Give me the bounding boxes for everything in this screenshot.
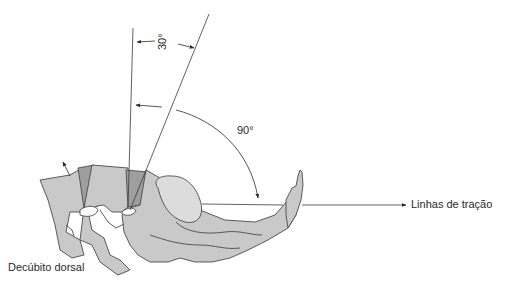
spine-traction-diagram: 30° 90° — [0, 0, 509, 285]
arrow-30-left — [137, 41, 155, 42]
lumbar-sacral-spine-illustration — [40, 165, 303, 275]
angle-30-label: 30° — [156, 33, 168, 50]
coccyx — [286, 170, 303, 228]
sacrum — [122, 170, 296, 262]
traction-lines-label: Linhas de tração — [411, 198, 492, 210]
vertebra-left — [40, 168, 85, 258]
foramen-1 — [80, 206, 98, 216]
arrow-90-left — [136, 105, 162, 107]
traction-line — [202, 204, 283, 205]
arrow-30-right — [178, 44, 194, 48]
angle-90-label: 90° — [237, 124, 254, 136]
arrow-rotation-indicator — [63, 162, 70, 176]
position-label: Decúbito dorsal — [8, 261, 84, 273]
